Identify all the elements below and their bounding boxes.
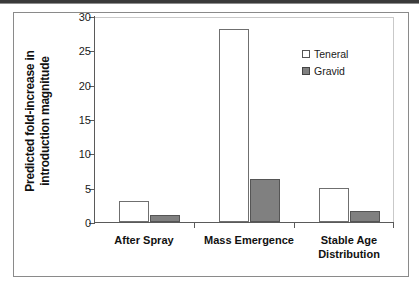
y-axis-title-line-2: introduction magnitude: [38, 56, 53, 186]
y-axis-title-line-1: Predicted fold-increase in: [23, 50, 38, 192]
bar-gravid-stable-age[interactable]: [350, 211, 380, 222]
x-axis-separator-1: [194, 223, 195, 228]
legend-label-gravid: Gravid: [314, 65, 345, 77]
y-axis-line: [94, 16, 95, 224]
chart-frame: Predicted fold-increase in introduction …: [13, 12, 409, 277]
legend: Teneral Gravid: [302, 48, 348, 77]
bar-teneral-after-spray[interactable]: [119, 201, 149, 222]
y-tick-label-25: 25: [79, 45, 91, 57]
page-top-rule-shadow: [0, 3, 419, 4]
filled-square-icon: [302, 67, 310, 75]
bar-teneral-mass-emergence[interactable]: [219, 29, 249, 222]
y-tick-label-30: 30: [79, 11, 91, 23]
bar-teneral-stable-age[interactable]: [319, 188, 349, 222]
x-axis-separator-3: [393, 223, 394, 228]
bar-gravid-mass-emergence[interactable]: [250, 179, 280, 222]
legend-label-teneral: Teneral: [314, 48, 348, 60]
x-axis-label-mass-emergence: Mass Emergence: [199, 233, 299, 247]
y-tick-label-10: 10: [79, 148, 91, 160]
x-axis-label-after-spray: After Spray: [99, 233, 189, 247]
legend-entry-gravid[interactable]: Gravid: [302, 65, 348, 77]
y-tick-label-15: 15: [79, 114, 91, 126]
x-axis-separator-2: [294, 223, 295, 228]
open-square-icon: [302, 50, 310, 58]
y-tick-label-20: 20: [79, 80, 91, 92]
y-tick-label-5: 5: [85, 183, 91, 195]
plot-top-border: [94, 17, 394, 18]
x-axis-label-stable-age-distribution: Stable Age Distribution: [299, 233, 399, 261]
y-tick-label-0: 0: [85, 217, 91, 229]
legend-entry-teneral[interactable]: Teneral: [302, 48, 348, 60]
plot-area: 0 5 10 15 20 25 30: [94, 17, 394, 223]
bar-gravid-after-spray[interactable]: [150, 215, 180, 222]
y-axis-title: Predicted fold-increase in introduction …: [16, 16, 60, 226]
x-axis-line: [94, 222, 394, 223]
plot-right-border: [393, 17, 394, 223]
